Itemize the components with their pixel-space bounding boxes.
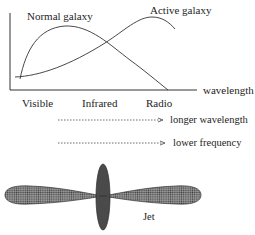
galaxy-disk	[96, 164, 110, 230]
jet-lobe-left	[5, 186, 103, 204]
tick-label-infrared: Infrared	[82, 97, 117, 109]
longer-wavelength-arrow	[58, 118, 163, 122]
normal-galaxy-label: Normal galaxy	[27, 10, 93, 22]
jet-label: Jet	[143, 211, 155, 223]
tick-label-radio: Radio	[146, 97, 172, 109]
jet-lobe-right	[103, 186, 201, 204]
longer-wavelength-label: longer wavelength	[170, 114, 248, 126]
normal-galaxy-curve	[20, 26, 168, 90]
active-galaxy-curve	[15, 17, 175, 77]
lower-frequency-label: lower frequency	[173, 137, 242, 149]
active-galaxy-label: Active galaxy	[150, 4, 211, 16]
tick-label-visible: Visible	[22, 97, 53, 109]
lower-frequency-arrow	[58, 141, 165, 145]
jet-diagram	[5, 164, 201, 230]
plot-axes	[10, 13, 197, 90]
x-axis-label: wavelength	[203, 84, 254, 96]
